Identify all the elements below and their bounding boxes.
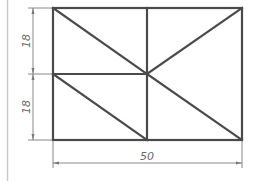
arrow-icon <box>236 162 242 165</box>
vertical-dimensions: 18 18 <box>20 8 52 140</box>
dimension-width: 50 <box>140 150 154 163</box>
dimension-upper-height: 18 <box>20 34 33 48</box>
technical-drawing: 18 18 50 <box>0 0 256 181</box>
arrow-icon <box>32 74 35 80</box>
horizontal-dimension: 50 <box>53 141 242 168</box>
diagonal-bottom-left <box>53 74 147 140</box>
part-outline <box>53 8 242 140</box>
arrow-icon <box>53 162 59 165</box>
dimension-lower-height: 18 <box>20 100 33 114</box>
arrow-icon <box>32 68 35 74</box>
diagonal-top-right <box>147 8 242 74</box>
diagonal-bottom-right <box>147 74 242 140</box>
arrow-icon <box>32 8 35 14</box>
diagonal-top-left <box>53 8 147 74</box>
arrow-icon <box>32 134 35 140</box>
